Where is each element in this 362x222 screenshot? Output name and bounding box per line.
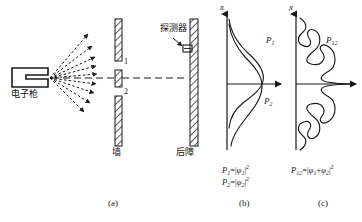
panel-b-axis-label: x [220,3,224,12]
formula-p12: P12=|φ1+φ2|2 [291,164,334,176]
electron-gun-label: 电子枪 [11,90,38,99]
electron-beam-arrows [50,34,97,112]
back-screen [190,19,198,146]
wall-with-slits [115,19,122,146]
wall-label: 墙 [112,148,121,157]
back-screen-label: 后障 [176,148,194,157]
slit-2-label: 2 [124,88,128,96]
formula-p2: P2=|φ2|2 [222,176,249,188]
panel-caption-b: (b) [239,199,250,208]
curve-p1-label: P1 [266,36,275,46]
panel-caption-c: (c) [318,199,328,208]
curve-p12-label: P12 [326,36,338,46]
panel-b-axes [227,14,281,150]
panel-caption-a: (a) [108,199,118,208]
figure-double-slit: 电子枪 探测器 墙 后障 1 2 x P1 P2 P1=|φ1|2 P2=|φ2… [0,0,362,222]
curve-p2 [229,24,262,146]
formula-p1: P1=|φ1|2 [222,164,249,176]
curve-p2-label: P2 [264,97,273,107]
detector-device [173,38,192,52]
detector-label: 探测器 [160,24,187,33]
slit-1-label: 1 [124,58,128,66]
electron-gun [12,68,48,87]
figure-canvas [0,0,362,222]
panel-c-axis-label: x [289,3,293,12]
